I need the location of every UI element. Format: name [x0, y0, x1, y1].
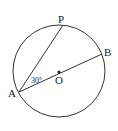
label-p: P [58, 13, 64, 25]
angle-label-30: 30° [31, 76, 42, 85]
geometry-diagram: P B A O 30° [0, 0, 118, 131]
label-a: A [8, 87, 16, 99]
label-b: B [104, 46, 111, 58]
circle-diagram-svg: P B A O 30° [0, 0, 118, 131]
label-o: O [55, 74, 63, 86]
